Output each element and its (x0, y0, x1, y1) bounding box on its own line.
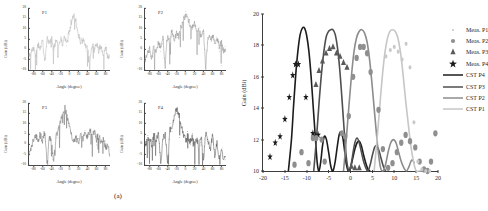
subplot-measured-point (160, 51, 161, 52)
panel-b-measured-point (433, 130, 437, 136)
panel-b-xtick: 20 (435, 175, 441, 181)
legend-item-label: Meas. P1 (466, 27, 488, 33)
panel-b-ytick: 20 (253, 11, 259, 17)
subplot-xtick: -20 (174, 168, 179, 172)
legend-item-label: CST P4 (466, 72, 485, 78)
subplot-measured-point (35, 135, 36, 136)
subplot-measured-point (105, 44, 106, 45)
subplot-measured-point (175, 37, 176, 38)
subplot-measured-point (183, 17, 184, 18)
subplot-measured-point (186, 142, 187, 143)
subplot-measured-point (175, 109, 176, 110)
subplot-ytick: 15 (138, 112, 142, 116)
subplot-measured-point (172, 30, 173, 31)
caption-a: (a) (0, 193, 236, 200)
subplot-measured-point (162, 43, 163, 44)
panel-b-xtick: 5 (371, 175, 374, 181)
legend-marker-dot-icon (442, 25, 464, 35)
subplot-ytick: 15 (22, 112, 26, 116)
subplot-measured-point (82, 37, 83, 38)
subplot-measured-point (224, 156, 225, 157)
panel-b-measured-point (282, 115, 287, 122)
subplot-measured-point (37, 140, 38, 141)
subplot-measured-point (42, 40, 43, 41)
legend-item-meas-p1[interactable]: Meas. P1 (442, 24, 488, 35)
subplot-measured-point (150, 56, 151, 57)
legend-item-label: Meas. P2 (466, 38, 488, 44)
subplot-measured-point (82, 136, 83, 137)
subplot-measured-point (214, 40, 215, 41)
legend-item-cst-p4[interactable]: CST P4 (442, 70, 488, 81)
subplot-ytick: 0 (24, 48, 26, 52)
subplot-measured-point (177, 37, 178, 38)
legend-item-label: CST P3 (466, 84, 485, 90)
subplot-ytick: -5 (23, 58, 26, 62)
subplot-measured-point (216, 145, 217, 146)
subplot-xtick: -60 (40, 168, 45, 172)
subplot-ytick: -10 (21, 163, 26, 167)
subplot-measured-point (50, 41, 51, 42)
subplot-xtick: 20 (77, 73, 81, 77)
subplot-ytick: 5 (140, 132, 142, 136)
panel-b-measured-point (354, 55, 358, 61)
panel-b-measured-point (393, 45, 396, 49)
legend-item-cst-p3[interactable]: CST P3 (442, 81, 488, 92)
subplot-xtick: -40 (49, 73, 54, 77)
subplot-measured-point (84, 134, 85, 135)
legend-item-meas-p4[interactable]: Meas. P4 (442, 58, 488, 69)
subplot-p3: P3 20151050-5-10-80-60-40-20020406080 An… (2, 97, 116, 190)
subplot-measured-point (222, 148, 223, 149)
subplot-p2-ylabel: Gain (dBi) (120, 39, 125, 57)
subplot-xtick: -80 (31, 73, 36, 77)
subplot-measured-point (187, 131, 188, 132)
subplot-measured-point (197, 140, 198, 141)
panel-a: P1 20151050-5-10-80-60-40-20020406080 An… (0, 0, 236, 211)
subplot-measured-point (106, 47, 107, 48)
subplot-measured-point (200, 142, 201, 143)
subplot-measured-point (31, 51, 32, 52)
legend-item-meas-p3[interactable]: Meas. P3 (442, 47, 488, 58)
subplot-measured-point (192, 133, 193, 134)
subplot-measured-point (61, 118, 62, 119)
subplot-ytick: 20 (22, 6, 26, 10)
subplot-xtick: -40 (165, 73, 170, 77)
subplot-p2-plot-area: 20151050-5-10-80-60-40-20020406080 (144, 8, 226, 71)
subplot-measured-point (100, 143, 101, 144)
panel-b-xtick: -15 (281, 175, 289, 181)
subplot-xtick: 60 (211, 168, 215, 172)
subplot-measured-point (173, 34, 174, 35)
subplot-measured-point (61, 41, 62, 42)
subplot-measured-point (37, 45, 38, 46)
subplot-measured-point (170, 123, 171, 124)
subplot-measured-point (211, 41, 212, 42)
subplot-measured-point (181, 27, 182, 28)
subplot-xtick: -60 (156, 168, 161, 172)
legend-item-meas-p2[interactable]: Meas. P2 (442, 35, 488, 46)
panel-b-measured-point (290, 71, 295, 78)
subplot-measured-point (85, 51, 86, 52)
panel-b-measured-point (386, 165, 390, 171)
subplot-measured-point (190, 144, 191, 145)
subplot-measured-point (93, 44, 94, 45)
subplot-measured-point (186, 16, 187, 17)
subplot-xtick: 40 (202, 168, 206, 172)
panel-b-measured-point (287, 93, 292, 100)
legend-item-cst-p2[interactable]: CST P2 (442, 92, 488, 103)
subplot-ytick: 5 (140, 37, 142, 41)
panel-b-ylabel: Gain (dBi) (241, 80, 247, 107)
subplot-measured-point (54, 51, 55, 52)
subplot-p1-xlabel: Angle (degree) (28, 85, 110, 90)
subplot-measured-point (185, 11, 186, 12)
subplot-xtick: -20 (58, 168, 63, 172)
subplot-measured-point (58, 127, 59, 128)
panel-b-measured-point (399, 140, 403, 146)
subplot-measured-point (164, 58, 165, 59)
subplot-measured-point (57, 56, 58, 57)
subplot-measured-point (53, 159, 54, 160)
subplot-xtick: -80 (31, 168, 36, 172)
subplot-xtick: -40 (49, 168, 54, 172)
legend-marker-triangle-icon (442, 47, 464, 57)
caption-b: (b) (480, 193, 488, 200)
legend-item-cst-p1[interactable]: CST P1 (442, 104, 488, 115)
subplot-measured-point (201, 145, 202, 146)
